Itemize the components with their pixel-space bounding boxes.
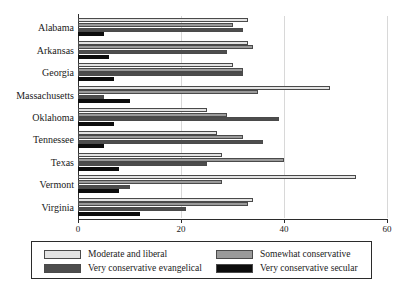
bar: [78, 158, 284, 162]
bar: [78, 77, 114, 81]
plot-area: [78, 16, 387, 218]
legend-label: Very conservative evangelical: [88, 263, 202, 274]
bar: [78, 23, 233, 27]
legend-item: Very conservative secular: [216, 263, 358, 274]
bar: [78, 122, 114, 126]
bar-group: [78, 106, 387, 128]
bar-group: [78, 173, 387, 195]
bar: [78, 41, 248, 45]
x-tick-label-40: 40: [280, 224, 289, 234]
y-axis-label-oklahoma: Oklahoma: [0, 112, 74, 123]
y-axis-label-alabama: Alabama: [0, 22, 74, 33]
bar: [78, 135, 243, 139]
bar-group: [78, 151, 387, 173]
bar-group: [78, 128, 387, 150]
x-tick-40: [284, 219, 285, 223]
bar: [78, 72, 243, 76]
bar: [78, 18, 248, 22]
bar-chart: AlabamaArkansasGeorgiaMassachusettsOklah…: [0, 0, 403, 291]
bar-group: [78, 38, 387, 60]
bar: [78, 212, 140, 216]
bar: [78, 167, 119, 171]
legend-swatch-icon: [44, 250, 81, 259]
y-axis-label-vermont: Vermont: [0, 179, 74, 190]
bar: [78, 32, 104, 36]
bar: [78, 153, 222, 157]
y-axis-label-georgia: Georgia: [0, 67, 74, 78]
bar: [78, 68, 243, 72]
legend-item: Moderate and liberal: [44, 249, 167, 260]
bar: [78, 144, 104, 148]
y-axis-category-labels: AlabamaArkansasGeorgiaMassachusettsOklah…: [0, 16, 74, 218]
legend-item: Very conservative evangelical: [44, 263, 202, 274]
legend-item: Somewhat conservative: [216, 249, 351, 260]
x-tick-20: [181, 219, 182, 223]
legend-swatch-icon: [44, 264, 81, 273]
x-tick-0: [78, 219, 79, 223]
x-tick-60: [387, 219, 388, 223]
bar: [78, 90, 258, 94]
bar: [78, 113, 227, 117]
bar: [78, 86, 330, 90]
bar-group: [78, 16, 387, 38]
y-axis-label-arkansas: Arkansas: [0, 44, 74, 55]
bar: [78, 175, 356, 179]
bar: [78, 117, 279, 121]
legend-swatch-icon: [216, 250, 253, 259]
bar-group: [78, 61, 387, 83]
bar: [78, 140, 263, 144]
legend-label: Somewhat conservative: [260, 249, 351, 260]
bar: [78, 189, 119, 193]
bar: [78, 185, 130, 189]
bar: [78, 162, 207, 166]
bar: [78, 50, 227, 54]
bar: [78, 207, 186, 211]
bar: [78, 28, 243, 32]
bar-group: [78, 196, 387, 218]
gridline-60: [387, 16, 388, 218]
bar: [78, 55, 109, 59]
y-axis-label-tennessee: Tennessee: [0, 134, 74, 145]
bar-group: [78, 83, 387, 105]
bar: [78, 95, 104, 99]
x-axis-line: [78, 219, 388, 220]
bar: [78, 108, 207, 112]
y-axis-label-texas: Texas: [0, 156, 74, 167]
legend-label: Moderate and liberal: [88, 249, 167, 260]
legend-swatch-icon: [216, 264, 253, 273]
x-tick-label-0: 0: [76, 224, 81, 234]
legend-label: Very conservative secular: [260, 263, 358, 274]
bar: [78, 99, 130, 103]
x-tick-label-60: 60: [383, 224, 392, 234]
x-tick-label-20: 20: [177, 224, 186, 234]
y-axis-label-massachusetts: Massachusetts: [0, 89, 74, 100]
bar: [78, 131, 217, 135]
y-axis-label-virginia: Virginia: [0, 201, 74, 212]
chart-legend: Moderate and liberalSomewhat conservativ…: [31, 241, 372, 279]
bar: [78, 202, 248, 206]
bar: [78, 198, 253, 202]
bar: [78, 63, 233, 67]
bar: [78, 45, 253, 49]
bar: [78, 180, 222, 184]
